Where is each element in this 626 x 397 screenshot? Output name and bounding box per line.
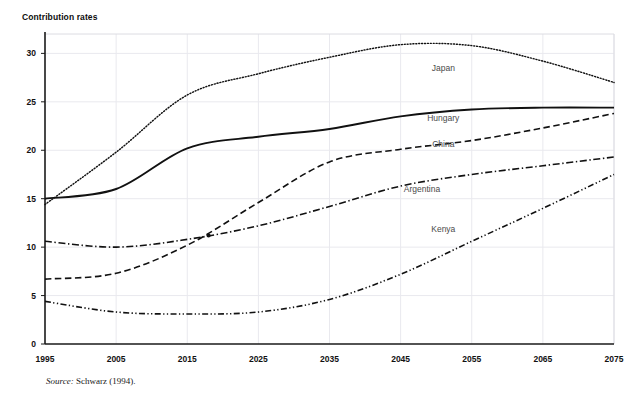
x-tick-label: 2065 [533, 354, 552, 364]
markers-group [206, 233, 210, 237]
source-text: Schwarz (1994). [74, 376, 136, 386]
y-tick-label: 0 [31, 339, 36, 349]
source-label: Source: [46, 376, 74, 386]
y-tick-label: 10 [27, 242, 37, 252]
crossing-marker [206, 233, 210, 237]
y-tick-label: 20 [27, 145, 37, 155]
series-labels-group: JapanHungaryChinaArgentinaKenya [404, 63, 460, 234]
x-tick-label: 2075 [605, 354, 624, 364]
line-chart-plot: 0510152025301995200520152025203520452055… [0, 0, 626, 397]
y-tick-label: 5 [31, 291, 36, 301]
gridlines-group [45, 34, 614, 344]
series-label-hungary: Hungary [427, 113, 460, 123]
series-label-kenya: Kenya [431, 224, 455, 234]
x-tick-label: 2015 [178, 354, 197, 364]
series-label-china: China [432, 139, 454, 149]
y-tick-label: 25 [27, 97, 37, 107]
series-label-japan: Japan [432, 63, 455, 73]
x-tick-label: 2035 [320, 354, 339, 364]
x-tick-label: 2025 [249, 354, 268, 364]
x-tick-label: 1995 [36, 354, 55, 364]
x-tick-label: 2055 [462, 354, 481, 364]
figure-container: Contribution rates 051015202530199520052… [0, 0, 626, 397]
x-tick-label: 2005 [107, 354, 126, 364]
y-tick-label: 30 [27, 48, 37, 58]
x-tick-label: 2045 [391, 354, 410, 364]
series-label-argentina: Argentina [404, 184, 441, 194]
source-note: Source: Schwarz (1994). [46, 376, 135, 386]
y-tick-label: 15 [27, 194, 37, 204]
